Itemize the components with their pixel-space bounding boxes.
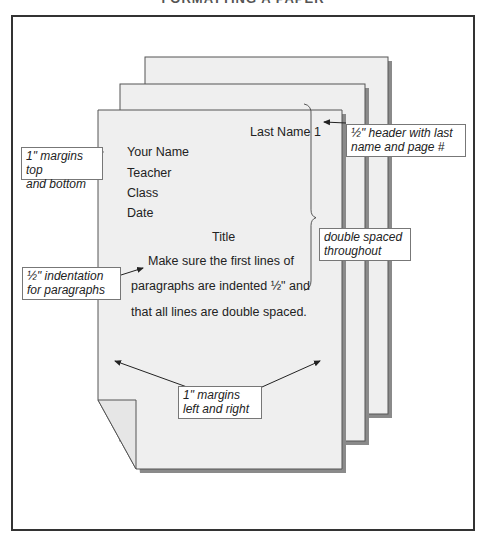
- callout-header: ½" header with last name and page #: [346, 124, 466, 157]
- body-line-1: Make sure the first lines of: [148, 254, 294, 268]
- heading-date: Date: [127, 206, 153, 220]
- heading-class: Class: [127, 186, 158, 200]
- heading-name: Your Name: [127, 145, 189, 159]
- body-line-3: that all lines are double spaced.: [131, 305, 307, 319]
- callout-margins-left-right: 1" margins left and right: [178, 386, 262, 419]
- body-line-2: paragraphs are indented ½" and: [131, 279, 310, 293]
- paper-title: Title: [212, 230, 235, 244]
- callout-indentation: ½" indentation for paragraphs: [22, 267, 121, 300]
- folded-corner: [98, 400, 136, 469]
- callout-double-spaced: double spaced throughout: [319, 228, 411, 261]
- heading-teacher: Teacher: [127, 166, 171, 180]
- page-header: Last Name 1: [250, 125, 321, 139]
- callout-margins-top-bottom: 1" margins top and bottom: [21, 147, 103, 180]
